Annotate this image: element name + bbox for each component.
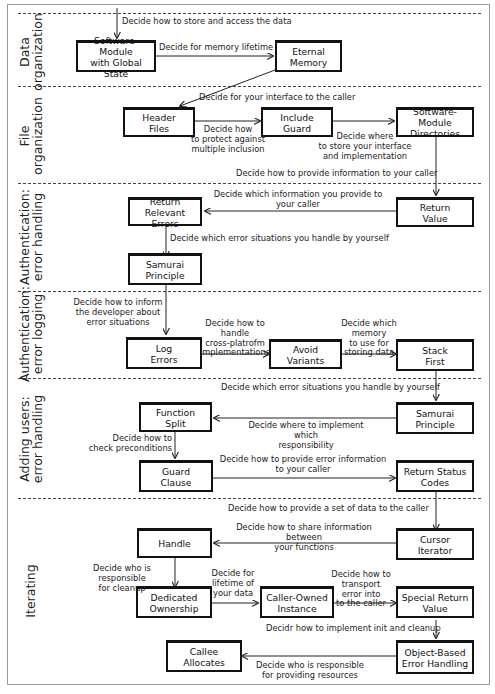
node-label: Handle — [158, 538, 190, 549]
node-eternal-memory: Eternal Memory — [275, 40, 342, 72]
section-label-file-organization: File organization — [18, 86, 46, 186]
edge-label: Decide how to inform the developer about… — [72, 298, 164, 327]
edge-label: Decide how to store and access the data — [122, 17, 292, 27]
node-label: Return Value — [420, 202, 451, 224]
node-header-files: Header Files — [123, 107, 195, 137]
node-callee-allocates: Callee Allocates — [166, 640, 242, 672]
edge-label: Decide how to provide a set of data to t… — [228, 504, 429, 514]
edge-label: Decide for your interface to the caller — [199, 93, 355, 103]
section-divider — [18, 291, 481, 292]
node-label: Header Files — [142, 112, 175, 134]
edge-label: Decide how to check preconditions — [86, 434, 172, 454]
edge-label: Decide who is responsible for providing … — [252, 661, 368, 681]
node-label: Dedicated Ownership — [150, 592, 199, 614]
node-label: Samurai Principle — [145, 259, 184, 281]
node-function-split: Function Split — [139, 402, 212, 432]
node-label: Samurai Principle — [415, 408, 454, 430]
edge-label: Decide which error situations you handle… — [170, 234, 389, 244]
section-divider — [18, 13, 481, 14]
section-label-auth-error-handling: Authentication: error handling — [18, 187, 46, 287]
node-guard-clause: Guard Clause — [139, 460, 213, 492]
edge-label: Decidr how to implement init and cleanup — [266, 624, 441, 634]
node-label: Stack First — [422, 345, 447, 367]
node-label: Callee Allocates — [183, 646, 225, 668]
node-label: Return Relevant Errors — [132, 196, 198, 229]
node-return-value: Return Value — [396, 197, 474, 227]
node-handle: Handle — [137, 528, 212, 558]
section-divider — [18, 498, 481, 499]
section-label-adding-users-error-handling: Adding users: error handling — [18, 389, 46, 489]
section-divider — [18, 378, 481, 379]
edge-label: Decide how to transport error into to th… — [311, 570, 411, 609]
node-label: Cursor Iterator — [418, 534, 452, 556]
edge-label: Decide where to store your interface and… — [318, 132, 412, 161]
section-divider — [18, 183, 481, 184]
node-samurai-principle-1: Samurai Principle — [128, 253, 202, 285]
node-return-status-codes: Return Status Codes — [396, 460, 474, 492]
node-label: Return Status Codes — [404, 466, 467, 488]
node-return-relevant-errors: Return Relevant Errors — [128, 197, 202, 226]
node-label: Include Guard — [280, 112, 313, 134]
edge-label: Decide where to implement which responsi… — [236, 421, 376, 450]
node-samurai-principle-2: Samurai Principle — [396, 402, 474, 434]
node-label: Eternal Memory — [290, 46, 327, 68]
node-label: Avoid Variants — [287, 344, 324, 366]
node-label: Special Return Value — [402, 592, 469, 614]
edge-label: Decide for memory lifetime — [159, 43, 273, 53]
edge-label: Decide which memory to use for storing d… — [325, 319, 413, 358]
node-software-module-global-state: Software-Module with Global State — [76, 40, 156, 72]
edge-label: Decide who is responsible for cleanup — [70, 564, 174, 593]
edge-label: Decide which information you provide to … — [213, 190, 383, 210]
node-object-based-error-handling: Object-Based Error Handling — [396, 640, 474, 674]
edge-label: Decide how to share information between … — [218, 523, 390, 552]
node-label: Function Split — [156, 407, 195, 429]
node-cursor-iterator: Cursor Iterator — [396, 528, 474, 560]
edge-label: Decide how to handle cross-platrofm impl… — [192, 319, 278, 358]
section-label-iterating: Iterating — [24, 541, 40, 641]
edge-label: Decide how to provide information to you… — [236, 169, 437, 179]
node-label: Guard Clause — [161, 466, 192, 488]
node-label: Software-Module with Global State — [80, 35, 152, 79]
node-label: Object-Based Error Handling — [402, 647, 468, 669]
node-log-errors: Log Errors — [126, 337, 202, 369]
section-label-auth-error-logging: Authentication: error logging — [18, 284, 46, 384]
section-divider — [18, 86, 481, 87]
edge-label: Decide how to protect against multiple i… — [190, 125, 266, 154]
node-label: Log Errors — [150, 343, 177, 365]
edge-label: Decide how to provide error information … — [218, 455, 388, 475]
edge-label: Decide which error situations you handle… — [221, 383, 440, 393]
edge-label: Decide for lifetime of your data — [207, 569, 259, 598]
